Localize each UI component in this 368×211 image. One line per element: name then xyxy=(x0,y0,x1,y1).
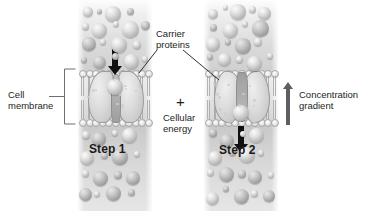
carrier-protein-leader-left xyxy=(139,50,157,73)
carrier-protein-leader-right xyxy=(183,50,219,80)
diagram-canvas: Step 1 Step 2 Cell membrane Carrier prot… xyxy=(0,0,368,211)
leader-lines-overlay xyxy=(0,0,368,211)
cell-membrane-bracket xyxy=(49,69,76,124)
